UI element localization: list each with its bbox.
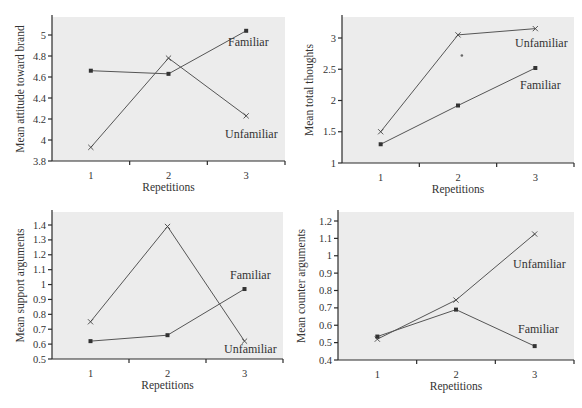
x-tick-label: 2 [453,369,458,380]
dot-marker-icon [533,66,537,70]
y-axis-title: Mean total thoughts [303,43,316,136]
x-tick-label: 3 [532,369,537,380]
y-axis-title: Mean support arguments [14,228,27,343]
dot-marker-icon [89,69,93,73]
chart-canvas: 123Repetitions3.844.24.44.64.85Mean atti… [0,0,582,408]
y-tick-label: 1.5 [323,126,336,137]
chart-panel-attitude: 123Repetitions3.844.24.44.64.85Mean atti… [14,15,285,194]
y-tick-label: 0.9 [319,268,332,279]
y-tick-label: 0.7 [319,302,332,313]
y-tick-label: 5 [41,30,46,41]
x-axis-title: Repetitions [430,380,483,393]
y-tick-label: 1.2 [319,216,332,227]
series-label: Unfamiliar [513,257,566,271]
y-tick-label: 4 [41,135,47,146]
annotation-mark [461,54,464,57]
y-tick-label: 0.7 [33,324,46,335]
y-tick-label: 1.1 [33,264,46,275]
dot-marker-icon [243,287,247,291]
series-label: Familiar [228,35,269,49]
y-tick-label: 1.3 [33,234,46,245]
dot-marker-icon [379,142,383,146]
y-tick-label: 1 [41,279,46,290]
y-tick-label: 0.8 [33,309,46,320]
y-tick-label: 0.4 [319,355,333,366]
x-tick-label: 3 [244,170,249,181]
y-tick-label: 4.6 [33,72,46,83]
dot-marker-icon [89,339,93,343]
series-label: Unfamiliar [515,36,568,50]
y-tick-label: 4.2 [33,114,46,125]
x-tick-label: 3 [242,368,247,379]
y-tick-label: 0.9 [33,294,46,305]
x-tick-label: 2 [455,172,460,183]
x-axis-title: Repetitions [141,379,194,392]
y-tick-label: 1 [327,250,332,261]
y-tick-label: 4.8 [33,51,46,62]
chart-panel-thoughts: 123Repetitions11.522.53Mean total though… [303,15,574,196]
y-tick-label: 3.8 [33,156,46,167]
figure-2x2-line-charts: 123Repetitions3.844.24.44.64.85Mean atti… [0,0,582,408]
y-tick-label: 2 [331,95,336,106]
chart-panel-support: 123Repetitions0.50.60.70.80.911.11.21.31… [14,210,283,392]
y-tick-label: 1 [331,158,336,169]
dot-marker-icon [533,344,537,348]
x-tick-label: 1 [375,369,380,380]
y-tick-label: 2.5 [323,64,336,75]
dot-marker-icon [456,104,460,108]
dot-marker-icon [244,29,248,33]
dot-marker-icon [454,308,458,312]
dot-marker-icon [375,335,379,339]
y-tick-label: 3 [331,33,336,44]
x-tick-label: 1 [88,170,93,181]
plot-area [338,212,574,360]
y-tick-label: 0.5 [33,354,46,365]
y-tick-label: 0.6 [319,320,332,331]
x-tick-label: 2 [166,170,171,181]
x-tick-label: 3 [533,172,538,183]
y-tick-label: 4.4 [33,93,47,104]
series-label: Unfamiliar [225,127,278,141]
y-tick-label: 1.1 [319,233,332,244]
y-tick-label: 0.5 [319,337,332,348]
y-axis-title: Mean attitude toward brand [14,25,26,153]
y-tick-label: 1.2 [33,249,46,260]
dot-marker-icon [167,72,171,76]
chart-panel-counter: 123Repetitions0.40.50.60.70.80.911.11.2M… [295,210,574,393]
x-tick-label: 1 [88,368,93,379]
x-axis-title: Repetitions [432,183,485,196]
y-tick-label: 1.4 [33,220,47,231]
x-tick-label: 1 [378,172,383,183]
series-label: Familiar [520,78,561,92]
y-tick-label: 0.8 [319,285,332,296]
series-label: Unfamiliar [224,342,277,356]
y-tick-label: 0.6 [33,339,46,350]
series-label: Familiar [518,322,559,336]
dot-marker-icon [166,333,170,337]
series-label: Familiar [230,268,271,282]
x-tick-label: 2 [165,368,170,379]
y-axis-title: Mean counter arguments [295,228,308,343]
x-axis-title: Repetitions [142,181,195,194]
